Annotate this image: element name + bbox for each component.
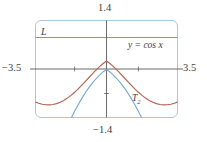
axis-label-bottom: −1.4 xyxy=(93,124,112,135)
line-L-label: L xyxy=(41,26,47,37)
taylor-label-subscript: 2 xyxy=(137,98,140,105)
taylor-polynomial-cosine-figure: 1.4 −1.4 −3.5 3.5 L y = cos x T2 xyxy=(0,0,207,142)
axis-label-left: −3.5 xyxy=(2,62,21,73)
plot-canvas xyxy=(0,0,207,142)
axis-label-right: 3.5 xyxy=(183,62,196,73)
cosine-curve-label: y = cos x xyxy=(128,40,163,50)
taylor-polynomial-label: T2 xyxy=(132,93,141,105)
axis-label-top: 1.4 xyxy=(98,2,111,13)
